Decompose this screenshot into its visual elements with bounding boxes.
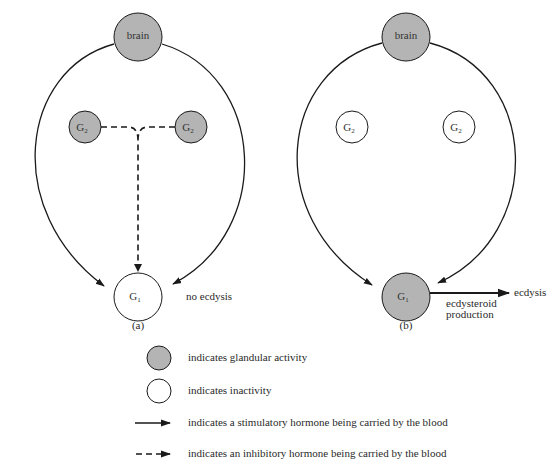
brain-label-b: brain bbox=[395, 29, 418, 41]
filled-circle-icon bbox=[147, 346, 171, 370]
g2-left-node-b: G2 bbox=[336, 111, 368, 143]
g1-node-a: G1 bbox=[114, 273, 162, 321]
g2-right-node-b: G2 bbox=[443, 111, 475, 143]
caption-a: (a) bbox=[132, 319, 145, 332]
endocrine-diagram: brain G2 G2 G1 no ecdysis (a) brain G2 bbox=[0, 0, 556, 472]
stimulatory-arrow-right-b bbox=[430, 43, 515, 283]
legend-text-active: indicates glandular activity bbox=[188, 351, 308, 363]
legend-item-inhibitory: indicates an inhibitory hormone being ca… bbox=[136, 447, 447, 459]
outcome-label-a: no ecdysis bbox=[186, 290, 232, 302]
legend-text-stimulatory: indicates a stimulatory hormone being ca… bbox=[188, 416, 448, 428]
g2-left-node-a: G2 bbox=[69, 111, 101, 143]
legend-item-stimulatory: indicates a stimulatory hormone being ca… bbox=[135, 416, 448, 428]
legend-item-inactive: indicates inactivity bbox=[147, 379, 272, 403]
diagram-a: brain G2 G2 G1 no ecdysis (a) bbox=[35, 13, 244, 332]
legend-text-inhibitory: indicates an inhibitory hormone being ca… bbox=[188, 447, 447, 459]
inhibitory-arrowhead-a bbox=[134, 264, 142, 272]
legend-item-active: indicates glandular activity bbox=[147, 346, 308, 370]
g2-right-node-a: G2 bbox=[175, 111, 207, 143]
stimulatory-arrow-left-b bbox=[297, 43, 382, 285]
inhibitory-arrow-a bbox=[101, 127, 175, 270]
brain-label-a: brain bbox=[127, 29, 150, 41]
caption-b: (b) bbox=[400, 319, 413, 332]
arrow-label-line2: production bbox=[446, 308, 494, 320]
g1-node-b: G1 bbox=[382, 273, 430, 321]
brain-node-b: brain bbox=[382, 13, 430, 61]
legend-text-inactive: indicates inactivity bbox=[188, 384, 272, 396]
diagram-b: brain G2 G2 G1 ecdysis ecdysteroid produ… bbox=[297, 13, 546, 332]
legend: indicates glandular activity indicates i… bbox=[135, 346, 448, 459]
outcome-label-b: ecdysis bbox=[514, 286, 546, 298]
brain-node-a: brain bbox=[114, 13, 162, 61]
stimulatory-arrow-left-a bbox=[35, 44, 114, 286]
open-circle-icon bbox=[147, 379, 171, 403]
stimulatory-arrow-right-a bbox=[162, 44, 245, 284]
